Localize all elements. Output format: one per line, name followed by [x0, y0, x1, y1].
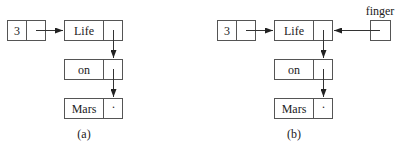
node-value: Life [74, 24, 94, 38]
caption-b: (b) [287, 127, 301, 141]
node-mars: Mars · [65, 99, 123, 119]
header-node: 3 [8, 21, 64, 41]
header-count: 3 [224, 24, 230, 38]
node-value: Mars [282, 102, 307, 116]
header-node: 3 [218, 21, 274, 41]
node-value: Life [284, 24, 304, 38]
null-marker-icon: · [322, 100, 326, 114]
node-mars: Mars · [275, 99, 333, 119]
diagram-a: 3 Life on Mars · (a) [8, 21, 123, 142]
node-value: on [78, 63, 90, 77]
finger-pointer: finger [334, 4, 394, 41]
node-value: Mars [72, 102, 97, 116]
node-life: Life [65, 21, 123, 59]
caption-a: (a) [77, 127, 90, 141]
node-on: on [275, 60, 333, 98]
node-life: Life [275, 21, 333, 59]
finger-label: finger [366, 4, 395, 18]
linked-list-diagrams: 3 Life on Mars · (a) 3 [0, 0, 398, 161]
header-count: 3 [14, 24, 20, 38]
null-marker-icon: · [112, 100, 116, 114]
node-on: on [65, 60, 123, 98]
node-value: on [288, 63, 300, 77]
diagram-b: 3 Life on Mars · finger (b) [218, 4, 395, 141]
